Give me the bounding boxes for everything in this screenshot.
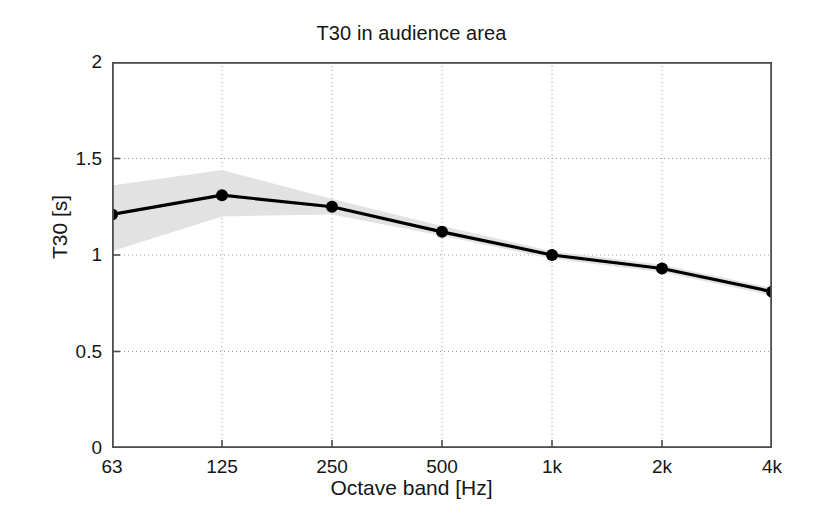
data-point-marker xyxy=(216,189,228,201)
vertical-grid-lines xyxy=(112,62,772,448)
x-tick-label: 125 xyxy=(206,456,238,478)
plot-svg xyxy=(112,62,772,448)
x-axis-title: Octave band [Hz] xyxy=(0,476,823,500)
grid-lines xyxy=(112,62,772,448)
x-tick-label: 250 xyxy=(316,456,348,478)
chart-figure: T30 in audience area 00.511.52 631252505… xyxy=(0,0,823,516)
page-title: T30 in audience area xyxy=(0,22,823,45)
data-point-marker xyxy=(656,263,668,275)
y-tick-label: 0.5 xyxy=(40,341,102,363)
data-point-marker xyxy=(436,226,448,238)
x-tick-label: 4k xyxy=(762,456,782,478)
data-point-marker xyxy=(546,249,558,261)
x-tick-label: 500 xyxy=(426,456,458,478)
x-tick-label: 2k xyxy=(652,456,672,478)
x-tick-label: 63 xyxy=(101,456,122,478)
y-tick-label: 0 xyxy=(40,437,102,459)
x-tick-label: 1k xyxy=(542,456,562,478)
plot-area xyxy=(112,62,772,448)
y-axis-title: T30 [s] xyxy=(48,127,72,327)
data-point-marker xyxy=(326,201,338,213)
y-tick-label: 2 xyxy=(40,51,102,73)
